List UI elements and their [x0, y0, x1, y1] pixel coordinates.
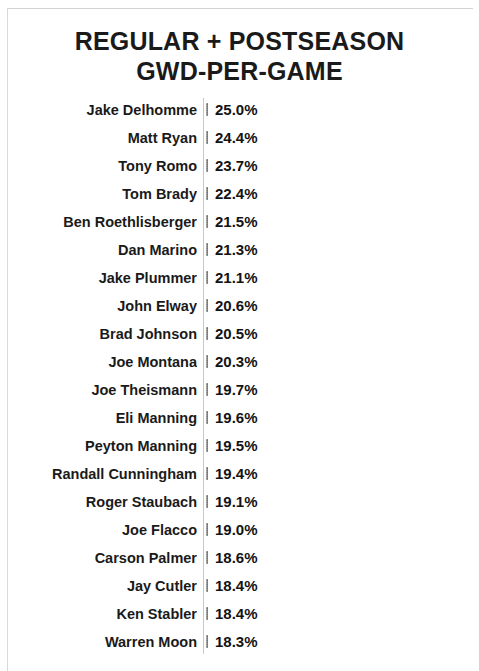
bar-row: Matt Ryan24.4%	[0, 124, 479, 152]
bar-category-label: Jake Plummer	[0, 264, 197, 292]
bar-track	[206, 488, 208, 516]
bar-row: John Elway20.6%	[0, 292, 479, 320]
bar-track	[206, 516, 208, 544]
bar-value-label: 18.3%	[215, 628, 258, 656]
bar-category-label: Joe Flacco	[0, 516, 197, 544]
bar	[206, 495, 208, 508]
bar-track	[206, 152, 208, 180]
bar-value-label: 21.3%	[215, 236, 258, 264]
bar-track	[206, 404, 208, 432]
bar-track	[206, 96, 208, 124]
bar-track	[206, 628, 208, 656]
bar-value-label: 19.4%	[215, 460, 258, 488]
bar-category-label: Ben Roethlisberger	[0, 208, 197, 236]
bar-track	[206, 348, 208, 376]
bar-row: Tony Romo23.7%	[0, 152, 479, 180]
bar	[206, 383, 208, 396]
bar-category-label: Ken Stabler	[0, 600, 197, 628]
bar-value-label: 20.6%	[215, 292, 258, 320]
bar-value-label: 18.4%	[215, 600, 258, 628]
bar-value-label: 19.6%	[215, 404, 258, 432]
chart-title-line-1: REGULAR + POSTSEASON	[18, 26, 461, 56]
bar-row: Jay Cutler18.4%	[0, 572, 479, 600]
bar	[206, 635, 208, 648]
bar-track	[206, 180, 208, 208]
bar-value-label: 19.7%	[215, 376, 258, 404]
bar-category-label: John Elway	[0, 292, 197, 320]
bar-value-label: 24.4%	[215, 124, 258, 152]
plot-area: Jake Delhomme25.0%Matt Ryan24.4%Tony Rom…	[0, 96, 479, 671]
bar	[206, 243, 208, 256]
bar-category-label: Joe Montana	[0, 348, 197, 376]
bar	[206, 159, 208, 172]
bar	[206, 187, 208, 200]
bar-value-label: 19.0%	[215, 516, 258, 544]
bar-row: Carson Palmer18.6%	[0, 544, 479, 572]
bar-category-label: Roger Staubach	[0, 488, 197, 516]
bar	[206, 327, 208, 340]
bar-value-label: 21.5%	[215, 208, 258, 236]
bar-value-label: 22.4%	[215, 180, 258, 208]
bar-value-label: 21.1%	[215, 264, 258, 292]
bar-row: Joe Flacco19.0%	[0, 516, 479, 544]
bar	[206, 467, 208, 480]
bar-track	[206, 320, 208, 348]
bar	[206, 439, 208, 452]
bar-chart: REGULAR + POSTSEASON GWD-PER-GAME Jake D…	[0, 0, 479, 671]
chart-page: REGULAR + POSTSEASON GWD-PER-GAME Jake D…	[0, 0, 479, 671]
bar	[206, 579, 208, 592]
bar-track	[206, 264, 208, 292]
bar-track	[206, 600, 208, 628]
bar-category-label: Warren Moon	[0, 628, 197, 656]
bar-row: Jake Delhomme25.0%	[0, 96, 479, 124]
bar-category-label: Tony Romo	[0, 152, 197, 180]
bar-row: Tom Brady22.4%	[0, 180, 479, 208]
bar-row: Dan Marino21.3%	[0, 236, 479, 264]
bar-track	[206, 432, 208, 460]
bar-row: Eli Manning19.6%	[0, 404, 479, 432]
bar-track	[206, 460, 208, 488]
bar	[206, 131, 208, 144]
bar	[206, 607, 208, 620]
bar-track	[206, 236, 208, 264]
bar-category-label: Brad Johnson	[0, 320, 197, 348]
bar	[206, 523, 208, 536]
bar	[206, 271, 208, 284]
bar-row: Joe Montana20.3%	[0, 348, 479, 376]
bar-track	[206, 292, 208, 320]
bar-category-label: Carson Palmer	[0, 544, 197, 572]
bar-row: Peyton Manning19.5%	[0, 432, 479, 460]
bar-row: Joe Theismann19.7%	[0, 376, 479, 404]
bar-row: Warren Moon18.3%	[0, 628, 479, 656]
bar-category-label: Joe Theismann	[0, 376, 197, 404]
bar	[206, 215, 208, 228]
bar	[206, 411, 208, 424]
bar-track	[206, 376, 208, 404]
bar-category-label: Randall Cunningham	[0, 460, 197, 488]
bar-category-label: Jake Delhomme	[0, 96, 197, 124]
bar-track	[206, 208, 208, 236]
bar-value-label: 19.1%	[215, 488, 258, 516]
bar-row: Jake Plummer21.1%	[0, 264, 479, 292]
bar-category-label: Eli Manning	[0, 404, 197, 432]
bar	[206, 103, 208, 116]
bar-category-label: Jay Cutler	[0, 572, 197, 600]
bar-value-label: 20.3%	[215, 348, 258, 376]
bar-category-label: Peyton Manning	[0, 432, 197, 460]
chart-title: REGULAR + POSTSEASON GWD-PER-GAME	[18, 26, 461, 86]
bar	[206, 551, 208, 564]
bar-value-label: 20.5%	[215, 320, 258, 348]
bar-value-label: 25.0%	[215, 96, 258, 124]
bar-track	[206, 572, 208, 600]
chart-title-line-2: GWD-PER-GAME	[18, 56, 461, 86]
bar-row: Ken Stabler18.4%	[0, 600, 479, 628]
bar-category-label: Tom Brady	[0, 180, 197, 208]
bar-value-label: 19.5%	[215, 432, 258, 460]
bar-row: Brad Johnson20.5%	[0, 320, 479, 348]
bar-row: Roger Staubach19.1%	[0, 488, 479, 516]
bar-value-label: 18.6%	[215, 544, 258, 572]
bar-track	[206, 124, 208, 152]
bar	[206, 355, 208, 368]
bar-value-label: 23.7%	[215, 152, 258, 180]
bar-row: Randall Cunningham19.4%	[0, 460, 479, 488]
